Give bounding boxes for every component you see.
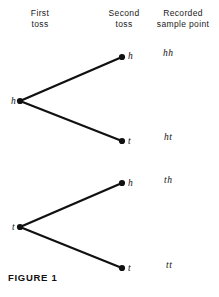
edge-root-t-to-h: [20, 183, 122, 227]
node-label-t-h: h: [128, 178, 133, 188]
node-label-t-t: t: [128, 263, 131, 273]
node-dot-t-h: [119, 180, 125, 186]
edge-root-t-to-t: [20, 227, 122, 268]
figure-container: First toss Second toss Recorded sample p…: [0, 0, 219, 297]
figure-caption: FIGURE 1: [8, 272, 57, 283]
node-dot-root-h: [17, 98, 23, 104]
edge-root-h-to-t: [20, 101, 122, 141]
edge-root-h-to-h: [20, 57, 122, 101]
outcome-label-th: th: [164, 175, 173, 185]
node-dot-h-t: [119, 138, 125, 144]
node-label-root-h: h: [11, 96, 16, 106]
node-dot-h-h: [119, 54, 125, 60]
outcome-label-ht: ht: [164, 132, 173, 142]
node-dot-root-t: [17, 224, 23, 230]
node-label-root-t: t: [12, 222, 15, 232]
node-label-h-h: h: [128, 51, 133, 61]
node-dot-t-t: [119, 265, 125, 271]
tree-branch-edges: [20, 57, 122, 268]
tree-diagram-svg: [0, 0, 219, 297]
tree-node-dots: [17, 54, 125, 271]
node-label-h-t: t: [128, 136, 131, 146]
outcome-label-hh: hh: [163, 48, 174, 58]
outcome-label-tt: tt: [166, 260, 172, 270]
